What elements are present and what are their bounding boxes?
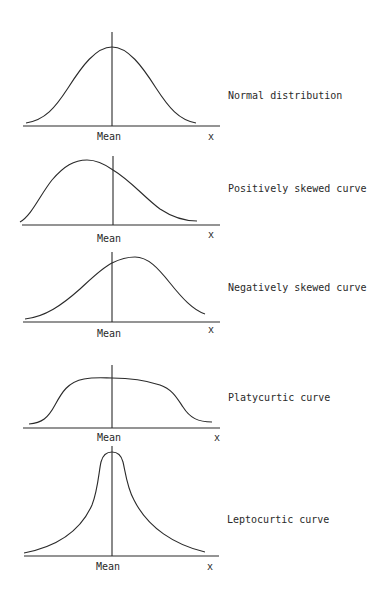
x-label: x	[208, 324, 214, 335]
leptokurtic-curve	[24, 452, 205, 553]
panel-leptokurtic: Mean x Leptocurtic curve	[24, 446, 329, 572]
panel-title: Positively skewed curve	[228, 183, 366, 194]
mean-label: Mean	[97, 328, 121, 339]
panel-title: Platycurtic curve	[228, 392, 330, 403]
panel-title: Leptocurtic curve	[227, 514, 329, 525]
positive-skew-curve	[20, 160, 197, 222]
panel-platykurtic: Mean x Platycurtic curve	[23, 365, 330, 443]
panel-negative-skew: Mean x Negatively skewed curve	[23, 252, 366, 339]
mean-label: Mean	[97, 131, 121, 142]
panel-positive-skew: Mean x Positively skewed curve	[20, 156, 366, 244]
platykurtic-curve	[29, 378, 212, 424]
x-label: x	[208, 229, 214, 240]
x-label: x	[208, 131, 214, 142]
mean-label: Mean	[97, 233, 121, 244]
x-label: x	[214, 432, 220, 443]
distribution-shapes-diagram: Mean x Normal distribution Mean x Positi…	[0, 0, 389, 600]
panel-normal: Mean x Normal distribution	[23, 32, 342, 142]
mean-label: Mean	[97, 432, 121, 443]
mean-label: Mean	[96, 561, 120, 572]
x-label: x	[207, 561, 213, 572]
panel-title: Normal distribution	[228, 90, 342, 101]
negative-skew-curve	[25, 257, 205, 319]
normal-curve	[26, 47, 196, 123]
panel-title: Negatively skewed curve	[228, 282, 366, 293]
